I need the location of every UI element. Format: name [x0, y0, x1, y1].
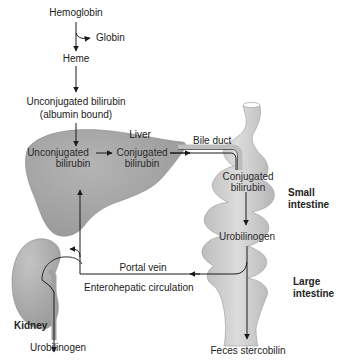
label-portal-vein: Portal vein	[119, 262, 166, 273]
label-urobilinogen-kidney: Urobilinogen	[30, 342, 86, 353]
label-small-intestine-2: intestine	[288, 199, 330, 210]
liver-shape	[26, 130, 186, 237]
label-enterohepatic: Enterohepatic circulation	[84, 282, 194, 293]
label-liver-unconj-2: bilirubin	[56, 158, 90, 169]
label-feces: Feces stercobilin	[210, 345, 285, 356]
label-hemoglobin: Hemoglobin	[49, 7, 102, 18]
label-intestine-conj-2: bilirubin	[231, 182, 265, 193]
label-small-intestine-1: Small	[288, 187, 315, 198]
label-liver-conj-1: Conjugated	[116, 147, 167, 158]
label-liver: Liver	[129, 129, 151, 140]
arrow-to-kidney	[70, 249, 80, 257]
label-urobilinogen-intestine: Urobilinogen	[219, 231, 275, 242]
label-unconjugated-top-2: (albumin bound)	[40, 109, 112, 120]
label-large-intestine-1: Large	[293, 276, 321, 287]
label-large-intestine-2: intestine	[293, 288, 335, 299]
label-globin: Globin	[96, 32, 125, 43]
label-heme: Heme	[63, 53, 90, 64]
label-liver-unconj-1: Unconjugated	[27, 147, 89, 158]
bilirubin-diagram: Hemoglobin Globin Heme Unconjugated bili…	[0, 0, 343, 361]
label-bile-duct: Bile duct	[193, 135, 232, 146]
label-intestine-conj-1: Conjugated	[222, 171, 273, 182]
arrow-globin	[76, 33, 90, 38]
label-liver-conj-2: bilirubin	[125, 158, 159, 169]
label-kidney: Kidney	[14, 320, 48, 331]
label-unconjugated-top-1: Unconjugated bilirubin	[27, 96, 126, 107]
